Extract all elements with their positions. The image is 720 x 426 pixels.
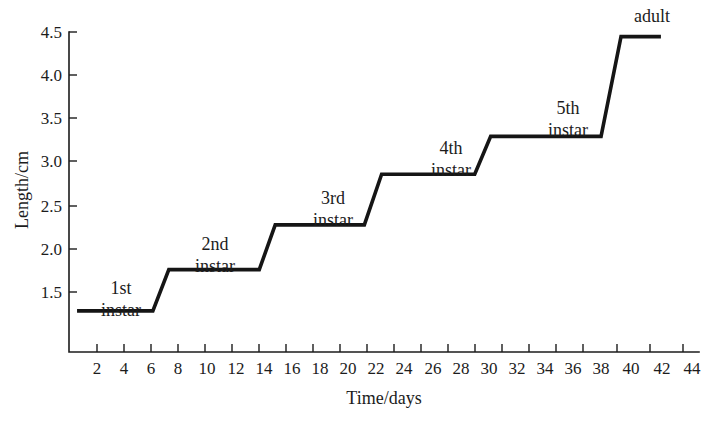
growth-curve-figure: 1.5 2.0 2.5 3.0 3.5 4.0 4.5 Length/cm xyxy=(0,0,720,426)
y-axis-tick-labels: 1.5 2.0 2.5 3.0 3.5 4.0 4.5 xyxy=(41,23,62,302)
x-tick-label-14: 14 xyxy=(256,359,274,378)
x-tick-label-42: 42 xyxy=(654,359,671,378)
stage-label-4th-instar-line2: instar xyxy=(431,160,471,180)
stage-label-5th-instar-line1: 5th xyxy=(556,98,579,118)
stage-annotations: 1st instar 2nd instar 3rd instar 4th ins… xyxy=(101,6,670,320)
y-tick-label-3.5: 3.5 xyxy=(41,109,62,128)
x-tick-label-20: 20 xyxy=(340,359,357,378)
x-tick-label-34: 34 xyxy=(537,359,555,378)
growth-step-curve xyxy=(77,37,661,311)
stage-label-adult: adult xyxy=(634,6,670,26)
x-tick-label-28: 28 xyxy=(453,359,470,378)
x-tick-label-4: 4 xyxy=(120,359,129,378)
x-tick-label-12: 12 xyxy=(228,359,245,378)
y-axis-ticks xyxy=(69,32,77,292)
y-tick-label-4.5: 4.5 xyxy=(41,23,62,42)
x-tick-label-18: 18 xyxy=(312,359,329,378)
y-tick-label-2.5: 2.5 xyxy=(41,197,62,216)
x-tick-label-32: 32 xyxy=(509,359,526,378)
axis-spine xyxy=(69,32,699,352)
y-tick-label-3.0: 3.0 xyxy=(41,152,62,171)
stage-label-5th-instar-line2: instar xyxy=(548,120,588,140)
stage-label-2nd-instar-line2: instar xyxy=(195,256,235,276)
x-tick-label-22: 22 xyxy=(368,359,385,378)
x-tick-label-10: 10 xyxy=(199,359,216,378)
y-tick-label-4.0: 4.0 xyxy=(41,66,62,85)
x-tick-label-44: 44 xyxy=(684,359,702,378)
stage-label-1st-instar-line2: instar xyxy=(101,300,141,320)
x-tick-label-26: 26 xyxy=(425,359,442,378)
x-tick-label-6: 6 xyxy=(147,359,156,378)
x-tick-label-2: 2 xyxy=(93,359,102,378)
x-axis-ticks xyxy=(97,344,683,352)
x-axis-tick-labels: 2 4 6 8 10 12 14 16 18 20 22 24 26 28 30… xyxy=(93,359,701,378)
x-tick-label-30: 30 xyxy=(481,359,498,378)
y-tick-label-1.5: 1.5 xyxy=(41,283,62,302)
stage-label-2nd-instar-line1: 2nd xyxy=(202,234,229,254)
x-tick-label-40: 40 xyxy=(623,359,640,378)
stage-label-4th-instar-line1: 4th xyxy=(439,138,462,158)
x-tick-label-38: 38 xyxy=(593,359,610,378)
y-tick-label-2.0: 2.0 xyxy=(41,240,62,259)
x-tick-label-16: 16 xyxy=(284,359,301,378)
y-axis-title: Length/cm xyxy=(12,151,32,229)
stage-label-3rd-instar-line2: instar xyxy=(313,210,353,230)
stage-label-1st-instar-line1: 1st xyxy=(110,278,131,298)
x-tick-label-24: 24 xyxy=(396,359,414,378)
x-tick-label-8: 8 xyxy=(174,359,183,378)
x-axis-title: Time/days xyxy=(346,388,421,408)
insect-growth-chart: 1.5 2.0 2.5 3.0 3.5 4.0 4.5 Length/cm xyxy=(0,0,720,426)
stage-label-3rd-instar-line1: 3rd xyxy=(321,188,345,208)
x-tick-label-36: 36 xyxy=(565,359,582,378)
